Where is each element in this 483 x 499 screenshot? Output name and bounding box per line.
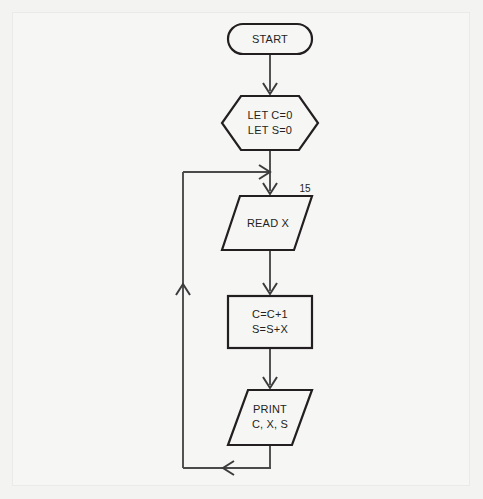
flowchart-page: START LET C=0 LET S=0 READ X 15 C=C+1 S=…: [0, 0, 483, 499]
node-start-label: START: [252, 33, 288, 45]
node-process: [228, 296, 312, 348]
node-process-label-line-2: S=S+X: [252, 323, 288, 335]
label-statement-number: 15: [299, 183, 311, 194]
node-init: [222, 96, 318, 150]
node-print-label-line-2: C, X, S: [252, 418, 288, 430]
node-print-label-line-1: PRINT: [253, 403, 287, 415]
node-process-label-line-1: C=C+1: [252, 308, 288, 320]
node-init-label-line-1: LET C=0: [248, 109, 293, 121]
flowchart-canvas: START LET C=0 LET S=0 READ X 15 C=C+1 S=…: [0, 0, 483, 499]
node-read-label: READ X: [247, 217, 290, 229]
node-init-label-line-2: LET S=0: [248, 124, 292, 136]
